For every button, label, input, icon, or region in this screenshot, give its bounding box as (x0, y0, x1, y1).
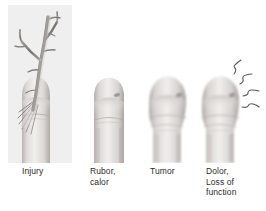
pain-line-1 (234, 60, 241, 74)
panel-dolor-caption: Dolor, Loss of function (206, 166, 236, 198)
pain-line-3 (243, 90, 259, 96)
panel-rubor-calor-caption: Rubor, calor (90, 166, 116, 187)
panel-tumor-artwork (138, 0, 196, 163)
panel-dolor-artwork (192, 0, 266, 163)
panel-tumor: Tumor (138, 0, 196, 211)
panel-injury: Injury (0, 0, 80, 211)
panel-rubor-calor: Rubor, calor (78, 0, 140, 211)
inflammation-figure: Injury (0, 0, 266, 211)
panel-injury-caption: Injury (22, 166, 43, 177)
panel-injury-artwork (0, 0, 80, 163)
panel-tumor-caption: Tumor (150, 166, 175, 177)
panel-rubor-calor-artwork (78, 0, 140, 163)
panel-dolor: Dolor, Loss of function (192, 0, 266, 211)
pain-line-2 (240, 74, 252, 84)
pain-line-4 (242, 104, 259, 108)
